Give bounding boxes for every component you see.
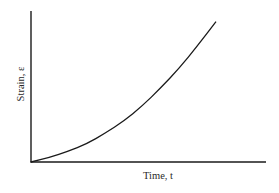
strain-time-chart: Strain, ε Time, t bbox=[0, 0, 279, 193]
y-axis-label: Strain, ε bbox=[15, 66, 26, 101]
strain-curve bbox=[31, 22, 216, 162]
x-axis-label: Time, t bbox=[143, 170, 173, 181]
